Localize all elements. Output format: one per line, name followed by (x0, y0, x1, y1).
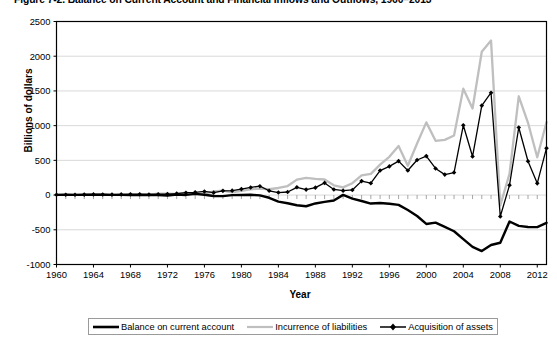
legend-swatch-balance (93, 322, 119, 332)
svg-text:1968: 1968 (120, 269, 141, 280)
plot-area: 25002000150010005000-500-1000 1960196419… (0, 0, 557, 300)
legend-label-assets: Acquisition of assets (408, 322, 493, 332)
x-axis-title: Year (0, 289, 557, 300)
legend-item-assets[interactable]: Acquisition of assets (380, 322, 493, 332)
data-series-layer (54, 41, 549, 252)
legend-swatch-liabilities (247, 322, 273, 332)
y-tick-labels: 25002000150010005000-500-1000 (27, 16, 51, 270)
chart-legend: Balance on current account Incurrence of… (88, 318, 498, 335)
svg-text:1980: 1980 (231, 269, 252, 280)
chart-figure: Figure 7-2. Balance on Current Account a… (0, 0, 557, 338)
svg-text:0: 0 (45, 189, 50, 200)
svg-text:1976: 1976 (194, 269, 215, 280)
svg-text:2008: 2008 (490, 269, 511, 280)
svg-text:1964: 1964 (83, 269, 104, 280)
legend-label-liabilities: Incurrence of liabilities (275, 322, 367, 332)
svg-text:2004: 2004 (453, 269, 474, 280)
svg-text:1988: 1988 (305, 269, 326, 280)
svg-text:1000: 1000 (30, 120, 51, 131)
x-tick-labels: 1960196419681972197619801984198819921996… (46, 269, 548, 280)
plot-frame (57, 22, 547, 265)
gridlines (54, 22, 547, 265)
svg-text:1972: 1972 (157, 269, 178, 280)
svg-text:2012: 2012 (527, 269, 548, 280)
svg-text:1960: 1960 (46, 269, 67, 280)
svg-text:1984: 1984 (268, 269, 289, 280)
svg-text:2000: 2000 (30, 51, 51, 62)
svg-text:1500: 1500 (30, 85, 51, 96)
legend-swatch-assets (380, 322, 406, 332)
svg-text:1996: 1996 (379, 269, 400, 280)
legend-item-balance[interactable]: Balance on current account (93, 322, 234, 332)
svg-text:1992: 1992 (342, 269, 363, 280)
svg-text:-500: -500 (32, 224, 51, 235)
legend-label-balance: Balance on current account (121, 322, 234, 332)
svg-text:500: 500 (35, 155, 51, 166)
svg-text:2000: 2000 (416, 269, 437, 280)
legend-item-liabilities[interactable]: Incurrence of liabilities (247, 322, 367, 332)
svg-text:2500: 2500 (30, 16, 51, 27)
